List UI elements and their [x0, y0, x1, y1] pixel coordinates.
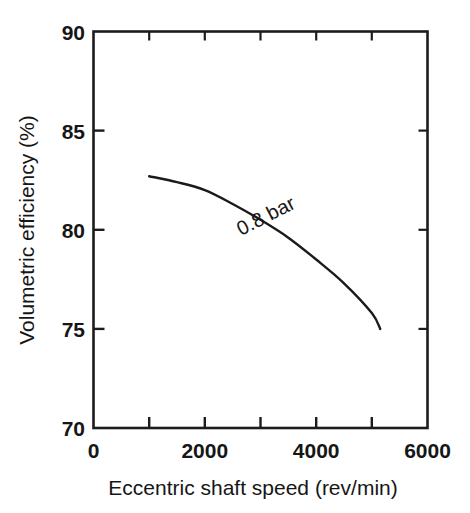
curve-label-0p8bar: 0.8 bar	[233, 191, 299, 239]
y-tick-label-85: 85	[62, 120, 86, 143]
y-axis-ticks-right	[419, 131, 428, 329]
x-tick-label-6000: 6000	[404, 439, 451, 462]
x-tick-label-4000: 4000	[293, 439, 340, 462]
y-tick-label-75: 75	[62, 318, 86, 341]
data-curve-0p8bar	[149, 176, 380, 329]
y-tick-label-90: 90	[62, 21, 85, 44]
x-axis-ticks	[149, 417, 372, 428]
y-tick-label-70: 70	[62, 417, 85, 440]
x-axis-ticks-top	[149, 32, 372, 41]
x-tick-label-2000: 2000	[181, 439, 228, 462]
chart-figure: 0.8 bar 90 85 80 75 70 0 2000 4000 6000 …	[0, 0, 470, 513]
y-axis-ticks	[94, 131, 105, 329]
x-axis-title: Eccentric shaft speed (rev/min)	[108, 476, 397, 499]
y-tick-label-80: 80	[62, 219, 85, 242]
x-tick-label-0: 0	[88, 439, 100, 462]
y-axis-title: Volumetric efficiency (%)	[15, 115, 38, 345]
chart-canvas: 0.8 bar 90 85 80 75 70 0 2000 4000 6000 …	[0, 0, 470, 513]
